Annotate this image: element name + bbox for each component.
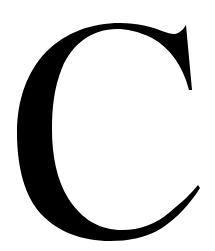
letter-canvas: C [0, 0, 215, 251]
letter-c-glyph [0, 0, 215, 251]
